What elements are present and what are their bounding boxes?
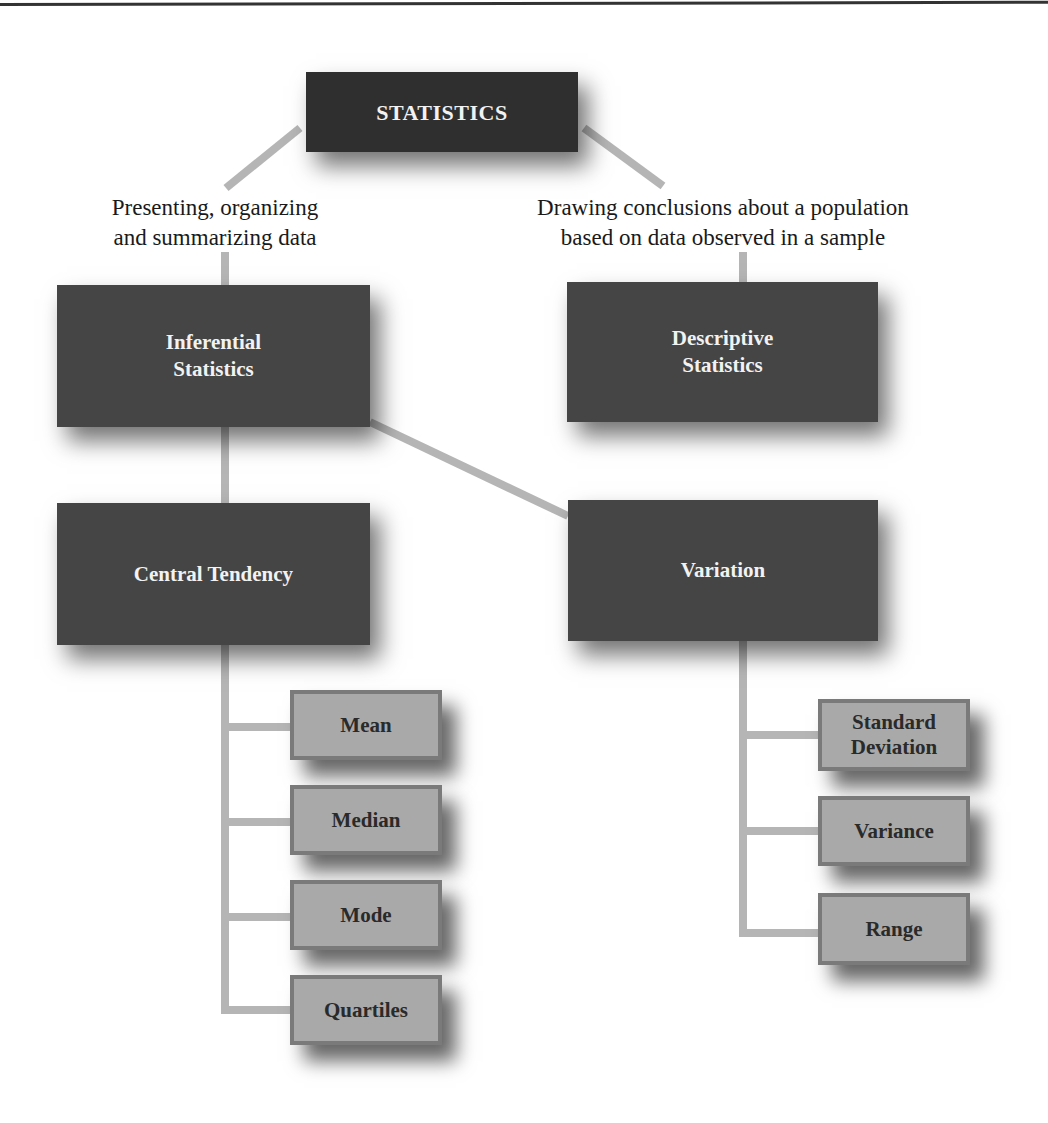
- leaf-mean: Mean: [290, 690, 442, 760]
- connector-inferential-variation: [370, 422, 568, 516]
- node-central-tendency-label: Central Tendency: [134, 561, 293, 588]
- root-node-label: STATISTICS: [376, 99, 507, 126]
- node-descriptive-line2: Statistics: [672, 352, 773, 379]
- connector-central-trunk: [225, 645, 292, 1010]
- leaf-median-label: Median: [332, 808, 401, 833]
- connector-root-right: [584, 128, 663, 186]
- leaf-mode: Mode: [290, 880, 442, 950]
- node-variation-label: Variation: [681, 557, 765, 584]
- leaf-standard-deviation: Standard Deviation: [818, 699, 970, 771]
- leaf-range-label: Range: [865, 917, 922, 942]
- branch-label-right-line2: based on data observed in a sample: [488, 223, 958, 253]
- leaf-mode-label: Mode: [340, 903, 391, 928]
- branch-label-left-line2: and summarizing data: [60, 223, 370, 253]
- leaf-quartiles-label: Quartiles: [324, 998, 408, 1023]
- leaf-variance: Variance: [818, 796, 970, 866]
- node-inferential-line1: Inferential: [166, 329, 261, 356]
- leaf-std-dev-line1: Standard: [851, 710, 937, 735]
- root-node-statistics: STATISTICS: [306, 72, 578, 152]
- node-central-tendency: Central Tendency: [57, 503, 370, 645]
- node-inferential-statistics: Inferential Statistics: [57, 285, 370, 427]
- leaf-mean-label: Mean: [340, 713, 391, 738]
- connector-root-left: [226, 128, 300, 188]
- branch-label-left-line1: Presenting, organizing: [60, 193, 370, 223]
- leaf-variance-label: Variance: [854, 819, 934, 844]
- branch-label-right-line1: Drawing conclusions about a population: [488, 193, 958, 223]
- connector-variation-trunk: [743, 641, 820, 933]
- leaf-std-dev-line2: Deviation: [851, 735, 937, 760]
- node-inferential-line2: Statistics: [166, 356, 261, 383]
- branch-label-right: Drawing conclusions about a population b…: [488, 193, 958, 253]
- leaf-quartiles: Quartiles: [290, 975, 442, 1045]
- leaf-median: Median: [290, 785, 442, 855]
- node-variation: Variation: [568, 500, 878, 641]
- node-descriptive-statistics: Descriptive Statistics: [567, 282, 878, 422]
- leaf-range: Range: [818, 893, 970, 965]
- branch-label-left: Presenting, organizing and summarizing d…: [60, 193, 370, 253]
- node-descriptive-line1: Descriptive: [672, 325, 773, 352]
